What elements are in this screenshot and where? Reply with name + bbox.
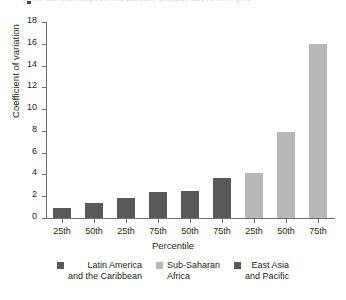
legend-swatch-icon [234, 262, 241, 269]
x-axis-tick-mark [222, 219, 223, 223]
x-axis-tick-mark [254, 219, 255, 223]
y-axis-tick-label: 2 [32, 190, 37, 199]
x-axis-tick-label: 75th [142, 226, 174, 236]
y-axis-tick-label: 16 [27, 38, 37, 47]
x-axis-tick-label: 75th [206, 226, 238, 236]
x-axis-tick-mark [158, 219, 159, 223]
bar [245, 173, 263, 218]
legend-swatch-icon [156, 262, 163, 269]
x-axis-tick-label: 25th [110, 226, 142, 236]
legend-item: Latin America and the Caribbean [57, 260, 142, 282]
x-axis-tick-mark [286, 219, 287, 223]
x-axis-tick-mark [94, 219, 95, 223]
y-axis-tick-label: 4 [32, 168, 37, 177]
x-axis-label: Percentile [0, 240, 346, 251]
y-axis-label: Coefficient of variation [11, 11, 21, 131]
x-axis-tick-mark [62, 219, 63, 223]
legend-label: Latin America and the Caribbean [68, 260, 142, 282]
y-axis-tick-label: 14 [27, 60, 37, 69]
legend-label: Sub-Saharan Africa [167, 260, 220, 282]
bar [117, 198, 135, 218]
bar-chart-figure: 024681012141618 25th50th25th75th50th75th… [0, 0, 346, 300]
x-axis-tick-mark [318, 219, 319, 223]
legend-item: Sub-Saharan Africa [156, 260, 220, 282]
x-axis-tick-label: 50th [270, 226, 302, 236]
x-axis-tick-mark [126, 219, 127, 223]
bar [309, 44, 327, 218]
bar [181, 191, 199, 218]
x-axis-tick-label: 75th [302, 226, 334, 236]
bar [149, 192, 167, 218]
bar [85, 203, 103, 218]
x-axis-tick-label: 25th [238, 226, 270, 236]
y-axis-tick-mark [42, 218, 46, 219]
bar [277, 132, 295, 218]
x-axis-tick-label: 50th [78, 226, 110, 236]
x-axis-tick-mark [190, 219, 191, 223]
y-axis-tick-label: 8 [32, 125, 37, 134]
y-axis-tick-label: 18 [27, 16, 37, 25]
legend-label: East Asia and Pacific [245, 260, 289, 282]
legend-swatch-icon [57, 262, 64, 269]
bar [213, 178, 231, 218]
y-axis-tick-label: 0 [32, 212, 37, 221]
legend-item: East Asia and Pacific [234, 260, 289, 282]
x-axis-tick-label: 25th [46, 226, 78, 236]
plot-area [46, 22, 334, 218]
y-axis-tick-label: 12 [27, 81, 37, 90]
y-axis-tick-label: 10 [27, 103, 37, 112]
bar [53, 208, 71, 218]
x-axis-tick-label: 50th [174, 226, 206, 236]
chart-legend: Latin America and the CaribbeanSub-Sahar… [0, 260, 346, 282]
y-axis-tick-label: 6 [32, 147, 37, 156]
